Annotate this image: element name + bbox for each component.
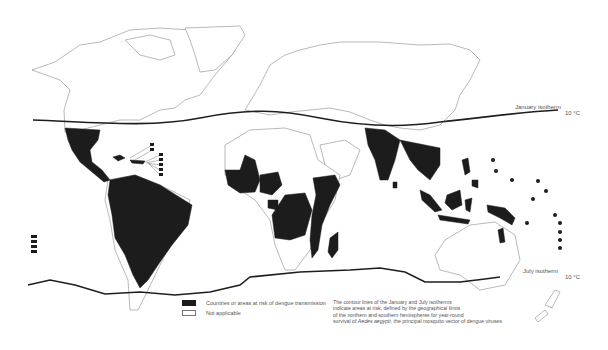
legend-item-risk: Countries or areas at risk of dengue tra… xyxy=(182,298,326,308)
eurasia xyxy=(245,42,480,130)
january-isotherm-value: 10 °C xyxy=(565,110,580,116)
risk-sri-lanka xyxy=(393,182,397,188)
risk-gabon xyxy=(268,200,278,210)
july-isotherm-value: 10 °C xyxy=(565,274,580,280)
map-note: The contour lines of the January and Jul… xyxy=(333,299,543,325)
risk-southeast-asia xyxy=(400,140,440,180)
legend-item-not-applicable: Not applicable xyxy=(182,308,326,318)
risk-south-america xyxy=(108,175,192,288)
risk-caribbean xyxy=(113,155,145,164)
risk-madagascar xyxy=(328,232,338,258)
caribbean-leaders xyxy=(130,143,163,176)
july-isotherm-line xyxy=(28,268,500,295)
risk-mexico-central-america xyxy=(65,128,110,182)
risk-borneo xyxy=(445,190,462,210)
note-line-4-pre: survival of xyxy=(333,318,358,324)
risk-philippines xyxy=(462,158,478,188)
legend: Countries or areas at risk of dengue tra… xyxy=(182,298,326,318)
left-island-markers xyxy=(31,235,37,253)
january-isotherm-label: January isotherm xyxy=(515,104,561,110)
risk-sulawesi xyxy=(465,198,472,212)
species-name: Aedes aegypti xyxy=(358,318,391,324)
risk-swatch xyxy=(182,300,196,306)
note-line-4: survival of Aedes aegypti, the principal… xyxy=(333,318,543,324)
risk-papua-new-guinea xyxy=(487,205,515,225)
note-line-4-post: , the principal mosquito vector of dengu… xyxy=(391,318,502,324)
july-isotherm-label: July isotherm xyxy=(523,268,558,274)
legend-na-label: Not applicable xyxy=(206,310,241,316)
risk-sumatra-java xyxy=(420,190,470,224)
risk-india xyxy=(365,128,400,180)
legend-risk-label: Countries or areas at risk of dengue tra… xyxy=(206,300,326,306)
not-applicable-swatch xyxy=(182,310,196,316)
